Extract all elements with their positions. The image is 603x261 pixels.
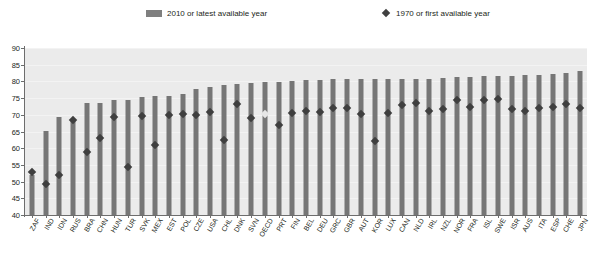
bar[interactable]	[358, 79, 363, 215]
bar-column[interactable]	[299, 48, 313, 215]
bar-column[interactable]	[162, 48, 176, 215]
bar-column[interactable]	[121, 48, 135, 215]
x-axis-tick	[210, 215, 211, 218]
bar-column[interactable]	[450, 48, 464, 215]
x-axis-label-dnk: DNK	[233, 217, 246, 233]
bar-column[interactable]	[176, 48, 190, 215]
bar-column[interactable]	[505, 48, 519, 215]
x-axis-tick	[279, 215, 280, 218]
bar-column[interactable]	[135, 48, 149, 215]
bar-column[interactable]	[231, 48, 245, 215]
bar[interactable]	[372, 79, 377, 215]
bar-column[interactable]	[25, 48, 39, 215]
bar-column[interactable]	[368, 48, 382, 215]
bar[interactable]	[441, 78, 446, 215]
x-axis-tick	[169, 215, 170, 218]
x-axis-tick	[553, 215, 554, 218]
bar[interactable]	[153, 96, 158, 215]
bar-column[interactable]	[546, 48, 560, 215]
bar-column[interactable]	[423, 48, 437, 215]
bar-column[interactable]	[327, 48, 341, 215]
bar-column[interactable]	[94, 48, 108, 215]
bar-column[interactable]	[464, 48, 478, 215]
bar[interactable]	[550, 74, 555, 215]
y-axis-tick-label: 75	[0, 94, 20, 103]
x-axis-label-can: CAN	[398, 217, 411, 233]
bar[interactable]	[29, 175, 34, 215]
bar-column[interactable]	[203, 48, 217, 215]
bar-column[interactable]	[285, 48, 299, 215]
bar-column[interactable]	[491, 48, 505, 215]
bar-column[interactable]	[313, 48, 327, 215]
bar[interactable]	[578, 71, 583, 215]
y-axis-tick-label: 65	[0, 127, 20, 136]
bar[interactable]	[303, 80, 308, 215]
y-axis-tick-label: 90	[0, 44, 20, 53]
bar[interactable]	[43, 131, 48, 216]
bar-column[interactable]	[217, 48, 231, 215]
x-axis-label-isr: ISR	[509, 217, 521, 231]
bar-column[interactable]	[573, 48, 587, 215]
y-axis-tick-label: 50	[0, 177, 20, 186]
bar[interactable]	[262, 82, 267, 215]
bar[interactable]	[194, 89, 199, 215]
bar-column[interactable]	[189, 48, 203, 215]
bar[interactable]	[208, 87, 213, 215]
bar-column[interactable]	[272, 48, 286, 215]
bar-column[interactable]	[381, 48, 395, 215]
bar-column[interactable]	[518, 48, 532, 215]
bar-column[interactable]	[39, 48, 53, 215]
bar-column[interactable]	[409, 48, 423, 215]
bar[interactable]	[84, 103, 89, 215]
bar-column[interactable]	[340, 48, 354, 215]
bar-column[interactable]	[532, 48, 546, 215]
bar[interactable]	[290, 81, 295, 215]
x-axis-tick	[443, 215, 444, 218]
bar-column[interactable]	[354, 48, 368, 215]
bar[interactable]	[70, 119, 75, 215]
bar-column[interactable]	[52, 48, 66, 215]
bar-column[interactable]	[258, 48, 272, 215]
bar-column[interactable]	[436, 48, 450, 215]
bar-column[interactable]	[148, 48, 162, 215]
bar[interactable]	[509, 76, 514, 215]
bar[interactable]	[57, 117, 62, 215]
bar[interactable]	[331, 79, 336, 215]
bar[interactable]	[386, 79, 391, 215]
y-axis-tick	[21, 215, 25, 216]
x-axis-label-bra: BRA	[82, 217, 95, 233]
x-axis-label-swe: SWE	[493, 217, 507, 234]
y-axis-tick-label: 40	[0, 211, 20, 220]
x-axis-tick	[114, 215, 115, 218]
x-axis-labels: ZAFINDIDNRUSBRACHNHUNTURSVKMEXESTPOLCZEU…	[25, 217, 587, 261]
bar[interactable]	[125, 100, 130, 215]
bar-column[interactable]	[395, 48, 409, 215]
x-axis-tick	[580, 215, 581, 218]
bar-column[interactable]	[244, 48, 258, 215]
bar[interactable]	[221, 85, 226, 215]
bar[interactable]	[249, 83, 254, 215]
x-axis-tick	[32, 215, 33, 218]
bar-column[interactable]	[560, 48, 574, 215]
x-axis-label-fin: FIN	[290, 217, 302, 230]
bar[interactable]	[98, 103, 103, 215]
x-axis-tick	[498, 215, 499, 218]
bar-column[interactable]	[66, 48, 80, 215]
bar[interactable]	[564, 73, 569, 215]
bar[interactable]	[537, 75, 542, 215]
bar-column[interactable]	[477, 48, 491, 215]
bar[interactable]	[427, 79, 432, 215]
x-axis-label-mex: MEX	[151, 217, 165, 234]
bar[interactable]	[345, 79, 350, 215]
bar-column[interactable]	[107, 48, 121, 215]
bar[interactable]	[276, 82, 281, 215]
bar[interactable]	[523, 75, 528, 215]
bar[interactable]	[399, 79, 404, 215]
x-axis-label-deu: DEU	[315, 217, 328, 233]
x-axis-tick	[457, 215, 458, 218]
bar-column[interactable]	[80, 48, 94, 215]
bar[interactable]	[317, 80, 322, 215]
x-axis-label-isl: ISL	[482, 217, 493, 230]
bar[interactable]	[468, 77, 473, 215]
x-axis-tick	[388, 215, 389, 218]
